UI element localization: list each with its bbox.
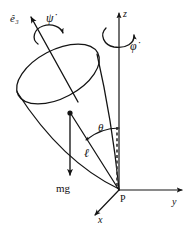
- label-mg: mg: [56, 182, 71, 194]
- label-theta: θ: [98, 121, 104, 133]
- cone-slant-left: [17, 92, 119, 189]
- line-ell: [71, 114, 119, 190]
- label-psi-dot: ψ̇: [46, 11, 57, 25]
- cone-base-ellipse: [7, 32, 109, 117]
- diagram-canvas: ê₃ ψ̇ z φ̇ θ ℓ mg P y x: [0, 0, 193, 230]
- label-pivot-p: P: [120, 193, 126, 204]
- label-x-axis: x: [97, 214, 103, 225]
- label-phi-dot: φ̇: [130, 39, 141, 53]
- physics-diagram-figure: ê₃ ψ̇ z φ̇ θ ℓ mg P y x: [0, 0, 193, 230]
- e3-axis-arrow: [31, 17, 78, 102]
- label-ell: ℓ: [84, 146, 89, 160]
- spin-arrow-psi: [34, 25, 63, 44]
- x-axis-arrow: [95, 190, 119, 215]
- label-e3: ê₃: [10, 12, 19, 24]
- label-z-axis: z: [122, 8, 127, 19]
- symmetry-axis-e3: [31, 17, 78, 102]
- cone-body: [7, 32, 119, 189]
- psi-spin-curved-arrow: [34, 25, 63, 44]
- label-y-axis: y: [171, 196, 177, 207]
- x-axis: [95, 190, 119, 215]
